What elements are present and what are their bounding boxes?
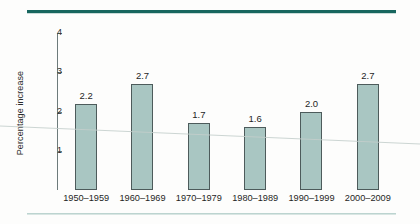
bar [188,123,210,190]
bar-value-label: 2.7 [136,71,149,81]
bar-value-label: 2.7 [361,71,374,81]
y-axis-title: Percentage increase [15,48,25,178]
chart-page: 1234 Percentage increase 2.22.71.71.62.0… [0,0,420,224]
bar-slot: 2.7 [114,33,170,190]
bottom-divider-rule-soft [27,214,396,215]
x-axis-category-label: 1990–1999 [282,193,342,204]
bar-value-label: 2.2 [80,91,93,101]
bar-chart: 1234 Percentage increase 2.22.71.71.62.0… [0,0,420,224]
bar-series: 2.22.71.71.62.02.7 [58,33,396,190]
x-axis-category-label: 1980–1989 [225,193,285,204]
bar-slot: 2.0 [283,33,339,190]
bar [75,104,97,190]
bar-slot: 2.7 [340,33,396,190]
bar-value-label: 2.0 [305,99,318,109]
x-axis-category-label: 2000–2009 [338,193,398,204]
x-axis-category-label: 1950–1959 [56,193,116,204]
bar-value-label: 1.6 [249,114,262,124]
bar [131,84,153,190]
x-axis-category-label: 1960–1969 [113,193,173,204]
x-axis-category-label: 1970–1979 [169,193,229,204]
bar-slot: 1.7 [171,33,227,190]
bar [357,84,379,190]
bar-slot: 2.2 [58,33,114,190]
bar [300,112,322,191]
x-axis-labels: 1950–19591960–19691970–19791980–19891990… [58,193,396,207]
bar-value-label: 1.7 [192,110,205,120]
bar-slot: 1.6 [227,33,283,190]
bar [244,127,266,190]
